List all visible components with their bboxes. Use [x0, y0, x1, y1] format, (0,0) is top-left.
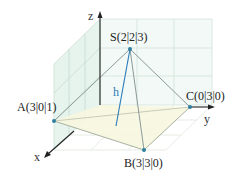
z-axis-arrow-icon: [98, 11, 103, 18]
y-axis-label: y: [204, 113, 210, 125]
point-C-label: C(0|3|0): [186, 90, 225, 102]
height-label: h: [113, 86, 119, 98]
point-S-label: S(2|2|3): [110, 31, 147, 43]
point-B: [142, 148, 146, 152]
x-axis-label: x: [34, 151, 40, 163]
point-S: [128, 47, 132, 51]
point-A-label: A(3|0|1): [17, 101, 56, 113]
point-B-label: B(3|3|0): [124, 157, 163, 169]
point-C: [188, 105, 192, 109]
point-A: [52, 119, 56, 123]
z-axis-label: z: [88, 10, 93, 22]
